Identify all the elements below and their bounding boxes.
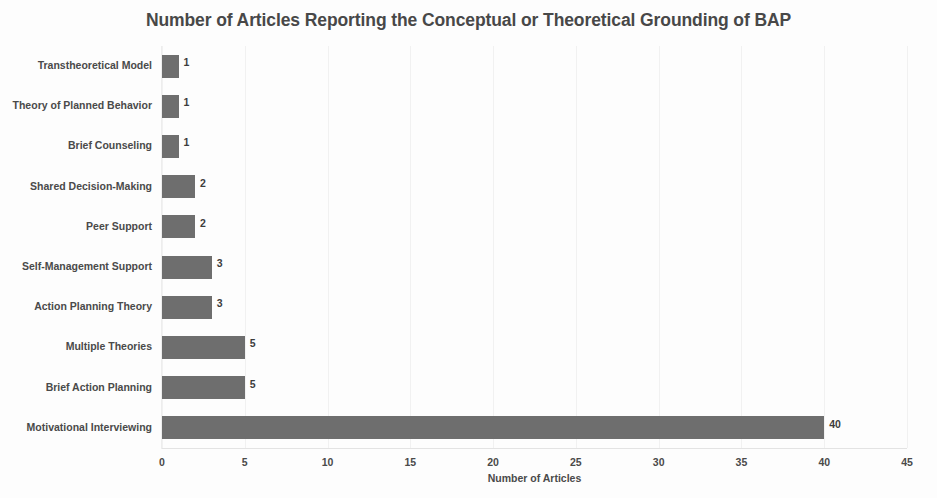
category-label: Motivational Interviewing — [0, 421, 152, 433]
chart-title: Number of Articles Reporting the Concept… — [0, 10, 937, 31]
bar[interactable] — [162, 376, 245, 399]
x-tick-label: 40 — [804, 456, 844, 468]
x-tick-label: 25 — [556, 456, 596, 468]
bar-value-label: 3 — [217, 257, 223, 269]
x-tick-label: 5 — [225, 456, 265, 468]
bar-row: Self-Management Support3 — [162, 247, 907, 287]
x-tick-label: 20 — [473, 456, 513, 468]
bar[interactable] — [162, 135, 179, 158]
bar-row: Peer Support2 — [162, 207, 907, 247]
category-label: Multiple Theories — [0, 340, 152, 352]
x-tick-label: 45 — [887, 456, 927, 468]
category-label: Theory of Planned Behavior — [0, 99, 152, 111]
bar[interactable] — [162, 256, 212, 279]
bar[interactable] — [162, 95, 179, 118]
category-label: Peer Support — [0, 220, 152, 232]
x-axis-line — [162, 448, 907, 449]
bar-value-label: 2 — [200, 217, 206, 229]
category-label: Brief Action Planning — [0, 381, 152, 393]
bar-value-label: 5 — [250, 337, 256, 349]
bar[interactable] — [162, 416, 824, 439]
bar-row: Motivational Interviewing40 — [162, 408, 907, 448]
bar-chart: Number of Articles Reporting the Concept… — [0, 0, 937, 498]
category-label: Self-Management Support — [0, 260, 152, 272]
x-tick-label: 30 — [639, 456, 679, 468]
gridline — [907, 46, 908, 448]
bar-value-label: 1 — [184, 96, 190, 108]
x-tick-label: 0 — [142, 456, 182, 468]
bar-row: Multiple Theories5 — [162, 327, 907, 367]
category-label: Transtheoretical Model — [0, 59, 152, 71]
x-axis-title: Number of Articles — [162, 472, 907, 484]
bar-row: Shared Decision-Making2 — [162, 167, 907, 207]
bar-value-label: 5 — [250, 378, 256, 390]
bar[interactable] — [162, 296, 212, 319]
bar[interactable] — [162, 175, 195, 198]
category-label: Shared Decision-Making — [0, 180, 152, 192]
x-tick-label: 35 — [721, 456, 761, 468]
bar-row: Transtheoretical Model1 — [162, 46, 907, 86]
bar-row: Theory of Planned Behavior1 — [162, 86, 907, 126]
bar[interactable] — [162, 336, 245, 359]
x-tick-label: 15 — [390, 456, 430, 468]
bar-row: Brief Action Planning5 — [162, 368, 907, 408]
bar-value-label: 1 — [184, 56, 190, 68]
bar[interactable] — [162, 55, 179, 78]
bar-row: Brief Counseling1 — [162, 126, 907, 166]
category-label: Action Planning Theory — [0, 300, 152, 312]
bar-row: Action Planning Theory3 — [162, 287, 907, 327]
x-tick-label: 10 — [308, 456, 348, 468]
plot-area: Transtheoretical Model1Theory of Planned… — [162, 46, 907, 448]
bar-value-label: 1 — [184, 136, 190, 148]
bar-value-label: 40 — [829, 418, 841, 430]
category-label: Brief Counseling — [0, 139, 152, 151]
bar-value-label: 3 — [217, 297, 223, 309]
bar-value-label: 2 — [200, 177, 206, 189]
bar[interactable] — [162, 215, 195, 238]
